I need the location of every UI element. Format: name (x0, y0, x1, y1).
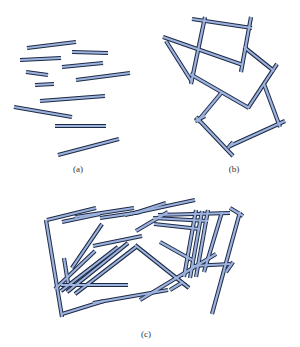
stick-b-7 (190, 74, 249, 108)
stick-b-9 (196, 117, 233, 156)
panel-a-disconnected-sticks (14, 42, 130, 155)
stick-c-31 (170, 282, 183, 290)
caption-c: (c) (141, 329, 151, 339)
stick-c-13 (230, 208, 243, 216)
caption-b: (b) (229, 164, 240, 174)
stick-b-2 (163, 37, 243, 65)
stick-c-6 (46, 220, 62, 317)
caption-a: (a) (73, 164, 83, 174)
stick-a-10 (58, 139, 119, 155)
stick-a-8 (14, 107, 72, 117)
stick-b-5 (244, 47, 274, 71)
stick-c-30 (93, 290, 168, 303)
stick-c-9 (93, 236, 142, 246)
stick-a-1 (72, 52, 108, 53)
stick-b-11 (264, 84, 280, 127)
stick-a-5 (76, 73, 130, 80)
panel-c-dense-network (46, 200, 243, 317)
stick-b-10 (230, 121, 285, 146)
stick-a-6 (35, 84, 54, 85)
stick-network-figure (0, 0, 300, 347)
panel-b-connected-network (163, 17, 285, 156)
